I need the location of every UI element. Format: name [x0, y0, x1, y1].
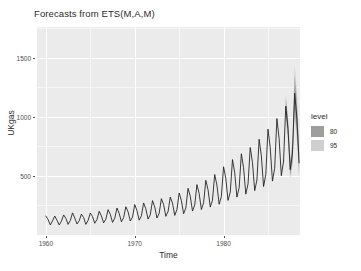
chart-screenshot: Forecasts from ETS(M,A,M) 50010001500 19… [0, 0, 361, 271]
x-axis-tick-label: 1980 [216, 240, 230, 247]
legend-item-80[interactable]: 80 [311, 124, 359, 138]
legend-key-80-icon [311, 126, 324, 137]
legend: level 80 95 [311, 112, 359, 152]
plot-series-svg [37, 27, 300, 235]
x-axis-tick-mark [46, 236, 47, 239]
x-axis-tick-mark [224, 236, 225, 239]
x-axis-tick-mark [135, 236, 136, 239]
y-axis-tick-mark [33, 58, 36, 59]
y-axis-tick-mark [33, 117, 36, 118]
y-axis-tick-mark [33, 176, 36, 177]
ukgas-line-series [46, 119, 284, 225]
y-axis-title: UKgas [6, 93, 16, 153]
x-axis-tick-label: 1960 [39, 240, 53, 247]
legend-label-80: 80 [330, 128, 337, 135]
legend-item-95[interactable]: 95 [311, 138, 359, 152]
legend-key-95-icon [311, 140, 324, 151]
legend-title: level [311, 112, 359, 121]
y-axis-tick-label: 500 [20, 172, 31, 179]
plot-panel [37, 27, 300, 235]
legend-label-95: 95 [330, 142, 337, 149]
x-axis-tick-label: 1970 [128, 240, 142, 247]
y-axis-tick-label: 1000 [17, 113, 31, 120]
y-axis-tick-label: 1500 [17, 54, 31, 61]
page-title: Forecasts from ETS(M,A,M) [34, 8, 155, 19]
x-axis-title: Time [37, 250, 300, 260]
